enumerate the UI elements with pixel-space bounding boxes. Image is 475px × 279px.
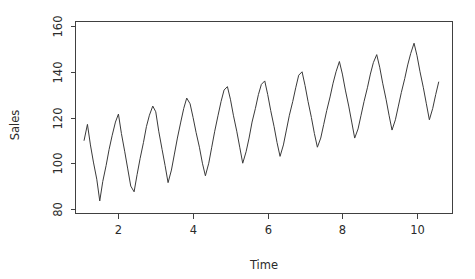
x-tick-label: 4 <box>190 223 197 237</box>
sales-time-series-chart: 80100120140160 246810 Sales Time <box>0 0 475 279</box>
y-tick-label: 140 <box>51 62 65 84</box>
y-axis-tick-labels: 80100120140160 <box>51 16 65 217</box>
chart-container: 80100120140160 246810 Sales Time <box>0 0 475 279</box>
y-tick-label: 80 <box>51 202 65 217</box>
x-tick-label: 8 <box>339 223 346 237</box>
x-tick-label: 10 <box>410 223 425 237</box>
y-tick-label: 120 <box>51 108 65 130</box>
y-tick-label: 160 <box>51 16 65 38</box>
data-series-group <box>84 43 439 201</box>
x-axis-title: Time <box>249 258 278 272</box>
y-tick-label: 100 <box>51 153 65 175</box>
y-axis-title: Sales <box>8 110 22 141</box>
x-tick-label: 6 <box>265 223 272 237</box>
x-tick-label: 2 <box>115 223 122 237</box>
sales-line <box>84 43 439 201</box>
x-axis-ticks <box>119 214 418 219</box>
x-axis-tick-labels: 246810 <box>115 223 425 237</box>
y-axis-ticks <box>71 27 76 210</box>
